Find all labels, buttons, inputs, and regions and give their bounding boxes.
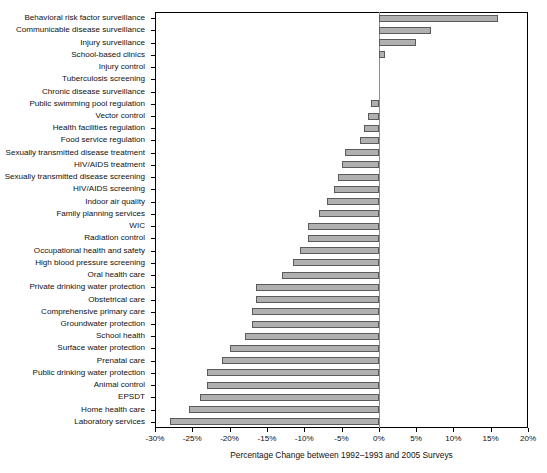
category-label: Comprehensive primary care	[41, 306, 145, 318]
category-label: Indoor air quality	[85, 196, 145, 208]
category-tick	[151, 385, 155, 386]
category-tick	[151, 422, 155, 423]
category-label: Communicable disease surveillance	[16, 24, 145, 36]
category-tick	[151, 238, 155, 239]
bar	[245, 333, 379, 340]
value-tick	[230, 428, 231, 432]
category-label: School health	[96, 330, 145, 342]
category-tick	[151, 140, 155, 141]
bar	[207, 382, 379, 389]
category-label: Groundwater protection	[60, 318, 145, 330]
category-axis-labels: Behavioral risk factor surveillanceCommu…	[0, 12, 151, 428]
value-tick	[192, 428, 193, 432]
bar	[308, 235, 379, 242]
category-tick	[151, 312, 155, 313]
category-tick	[151, 397, 155, 398]
category-label: Chronic disease surveillance	[42, 86, 145, 98]
value-tick-label: -15%	[257, 434, 276, 443]
category-label: Family planning services	[56, 208, 145, 220]
bar	[379, 27, 431, 34]
category-label: HIV/AIDS treatment	[74, 159, 145, 171]
bar	[293, 259, 379, 266]
category-label: Laboratory services	[74, 416, 145, 428]
category-label: Behavioral risk factor surveillance	[24, 12, 145, 24]
bar	[338, 174, 379, 181]
bar-series	[155, 12, 528, 428]
bar	[379, 51, 385, 58]
bar	[334, 186, 379, 193]
bar	[379, 39, 416, 46]
value-tick-label: -10%	[295, 434, 314, 443]
category-label: Injury surveillance	[80, 37, 145, 49]
category-tick	[151, 324, 155, 325]
value-tick	[453, 428, 454, 432]
category-tick	[151, 251, 155, 252]
category-tick	[151, 300, 155, 301]
value-tick	[267, 428, 268, 432]
category-tick	[151, 79, 155, 80]
category-label: Public swimming pool regulation	[29, 98, 145, 110]
bar	[230, 345, 379, 352]
category-tick	[151, 18, 155, 19]
category-tick	[151, 287, 155, 288]
bar	[252, 308, 379, 315]
category-label: WIC	[129, 220, 145, 232]
category-label: Prenatal care	[97, 355, 145, 367]
category-label: Food service regulation	[61, 134, 145, 146]
category-label: Oral health care	[87, 269, 145, 281]
zero-reference-line	[379, 12, 380, 428]
category-tick	[151, 165, 155, 166]
category-label: Private drinking water protection	[29, 281, 145, 293]
bar	[360, 137, 379, 144]
value-tick	[304, 428, 305, 432]
category-label: Injury control	[99, 61, 145, 73]
bar	[319, 210, 379, 217]
category-tick	[151, 263, 155, 264]
bar	[282, 272, 379, 279]
category-tick	[151, 410, 155, 411]
category-tick	[151, 43, 155, 44]
x-axis-title: Percentage Change between 1992–1993 and …	[155, 450, 528, 460]
bar	[256, 296, 379, 303]
value-tick-label: -20%	[220, 434, 239, 443]
category-tick	[151, 348, 155, 349]
category-label: School-based clinics	[71, 49, 145, 61]
bar	[379, 15, 498, 22]
value-tick-label: -5%	[334, 434, 348, 443]
value-tick-label: -30%	[146, 434, 165, 443]
value-tick-label: 20%	[520, 434, 536, 443]
bar	[308, 223, 379, 230]
horizontal-bar-chart: Behavioral risk factor surveillanceCommu…	[0, 0, 547, 473]
category-label: Surface water protection	[57, 342, 145, 354]
bar	[371, 100, 378, 107]
bar	[189, 406, 379, 413]
category-tick	[151, 67, 155, 68]
bar	[170, 418, 379, 425]
category-tick	[151, 361, 155, 362]
category-tick	[151, 177, 155, 178]
bar	[207, 369, 379, 376]
category-tick	[151, 373, 155, 374]
category-label: Home health care	[81, 404, 145, 416]
category-label: Occupational health and safety	[34, 245, 145, 257]
category-tick	[151, 275, 155, 276]
value-tick-label: -25%	[183, 434, 202, 443]
bar	[368, 113, 379, 120]
value-tick-label: 15%	[483, 434, 499, 443]
value-tick	[155, 428, 156, 432]
category-tick	[151, 202, 155, 203]
category-label: Animal control	[94, 379, 145, 391]
category-label: Tuberculosis screening	[62, 73, 145, 85]
category-tick	[151, 153, 155, 154]
value-axis: -30%-25%-20%-15%-10%-5%0%5%10%15%20%	[155, 428, 528, 450]
value-tick-label: 10%	[445, 434, 461, 443]
category-tick	[151, 189, 155, 190]
category-tick	[151, 30, 155, 31]
category-label: EPSDT	[118, 391, 145, 403]
value-tick	[528, 428, 529, 432]
category-label: Sexually transmitted disease treatment	[6, 147, 145, 159]
category-tick	[151, 116, 155, 117]
category-label: Vector control	[96, 110, 146, 122]
category-label: HIV/AIDS screening	[73, 183, 145, 195]
category-tick	[151, 92, 155, 93]
